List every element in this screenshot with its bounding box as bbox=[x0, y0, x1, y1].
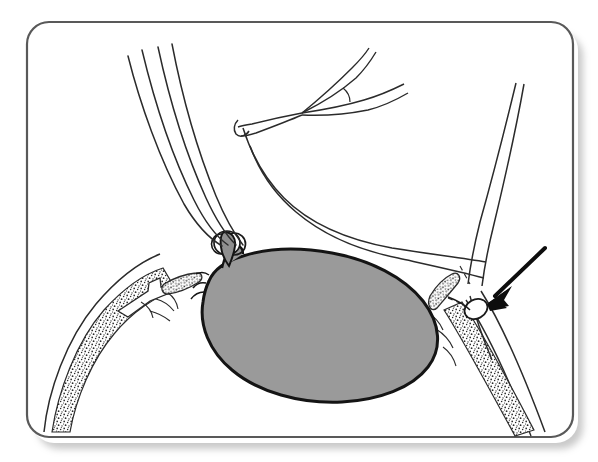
illustration-canvas bbox=[0, 0, 598, 462]
figure-root: Surgical line drawing: ligated mass with… bbox=[0, 0, 598, 462]
